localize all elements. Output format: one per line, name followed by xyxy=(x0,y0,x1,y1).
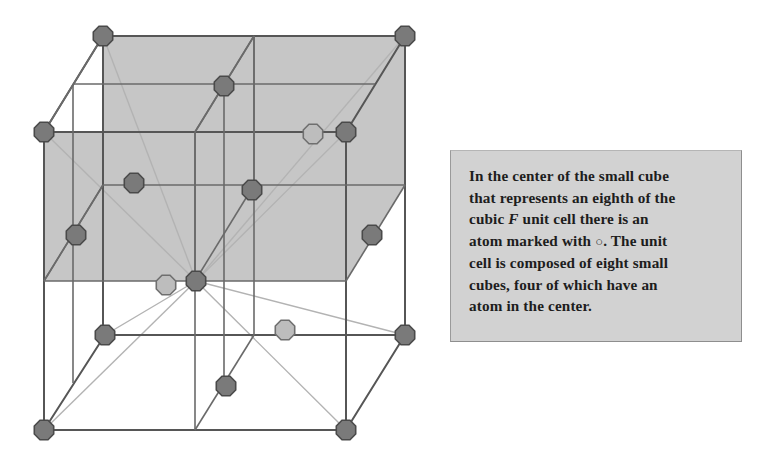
caption-line-3-pre: cubic xyxy=(469,210,504,227)
atom-corner-front-top-right xyxy=(336,122,355,141)
caption-box: In the center of the small cube that rep… xyxy=(450,150,742,342)
caption-text: In the center of the small cube that rep… xyxy=(469,165,725,317)
atom-octant-center-marked xyxy=(156,275,175,294)
atom-corner-front-bottom-right xyxy=(336,420,355,439)
atom-corner-back-bottom-right xyxy=(395,325,414,344)
atom-edge-mid-left xyxy=(66,225,85,244)
caption-symbol-F: F xyxy=(508,210,518,227)
atom-corner-back-top-right xyxy=(395,26,414,45)
caption-line-5: cell is composed of eight small xyxy=(469,254,668,271)
open-circle-icon: ○ xyxy=(595,234,603,249)
atom-corner-front-bottom-left xyxy=(34,420,53,439)
caption-line-7: atom in the center. xyxy=(469,297,592,314)
caption-line-3-post: unit cell there is an xyxy=(523,210,649,227)
atom-body-center xyxy=(186,271,205,290)
figure-stage: In the center of the small cube that rep… xyxy=(0,0,757,462)
atom-face-center-bottom xyxy=(216,376,235,395)
caption-line-2: that represents an eighth of the xyxy=(469,189,675,206)
caption-line-4-pre: atom marked with xyxy=(469,232,591,249)
caption-line-6: cubes, four of which have an xyxy=(469,276,658,293)
atom-corner-front-top-left xyxy=(34,122,53,141)
caption-line-1: In the center of the small cube xyxy=(469,167,669,184)
atom-corner-back-top-left xyxy=(93,26,112,45)
caption-line-4-post: . The unit xyxy=(603,232,667,249)
atom-face-center-front-lower xyxy=(275,320,294,339)
atom-face-center-upper-right-a xyxy=(303,124,322,143)
atom-face-center-left-upper xyxy=(124,173,143,192)
atom-edge-back-top-mid xyxy=(214,76,233,95)
unit-cell-diagram xyxy=(0,0,450,462)
atom-center-of-octant-right xyxy=(242,180,261,199)
atom-edge-mid-right xyxy=(362,225,381,244)
atom-corner-back-bottom-left xyxy=(95,325,114,344)
